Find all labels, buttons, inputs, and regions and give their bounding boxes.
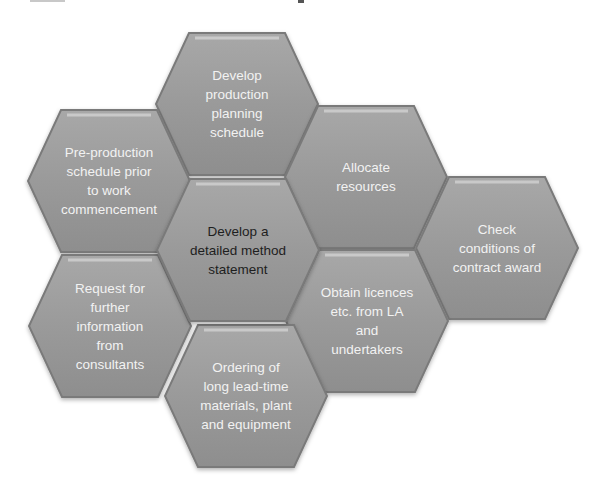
hexagon-far-right: [416, 177, 578, 319]
hexagon-bottom: [165, 325, 327, 467]
hexagon-diagram: [0, 0, 598, 490]
hexagon-top: [156, 33, 318, 175]
hexagon-lower-left: [29, 255, 191, 397]
hexagon-center: [157, 179, 319, 321]
hexagon-upper-right: [285, 106, 447, 248]
